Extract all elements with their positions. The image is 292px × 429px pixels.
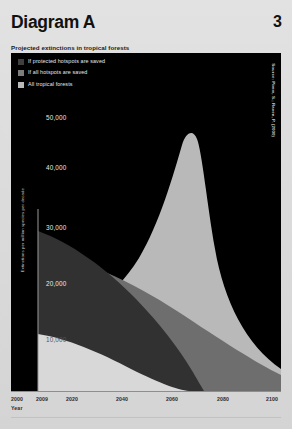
legend-label: If protected hotspots are saved	[28, 59, 105, 64]
legend-swatch-protected-hotspots	[18, 59, 24, 65]
y-tick-10000: 10,000	[46, 337, 66, 343]
chart-panel: If protected hotspots are saved If all h…	[11, 53, 281, 391]
chart-legend: If protected hotspots are saved If all h…	[18, 57, 105, 92]
x-tick-2080: 2080	[217, 397, 229, 402]
page-background: Diagram A 3 Projected extinctions in tro…	[0, 0, 292, 429]
x-axis: 2000 2009 2020 2040 2060 2080 2100 Year	[11, 391, 281, 429]
legend-item[interactable]: If all hotspots are saved	[18, 69, 105, 78]
x-tick-2100: 2100	[266, 397, 278, 402]
y-tick-40000: 40,000	[46, 165, 66, 171]
y-tick-30000: 30,000	[46, 225, 66, 231]
legend-label: All tropical forests	[28, 82, 73, 87]
legend-label: If all hotspots are saved	[28, 70, 87, 75]
x-tick-2009: 2009	[36, 397, 48, 402]
x-tick-2000: 2000	[11, 397, 23, 402]
legend-item[interactable]: All tropical forests	[18, 80, 105, 89]
footer-rule	[11, 417, 281, 418]
legend-item[interactable]: If protected hotspots are saved	[18, 57, 105, 66]
y-tick-20000: 20,000	[46, 281, 66, 287]
y-axis-title: Extinctions per million species per deca…	[21, 187, 25, 273]
x-axis-line	[11, 391, 281, 392]
legend-swatch-all-hotspots	[18, 70, 24, 76]
page-number: 3	[273, 14, 282, 30]
x-axis-title: Year	[11, 406, 23, 411]
x-tick-2060: 2060	[166, 397, 178, 402]
x-tick-2040: 2040	[116, 397, 128, 402]
y-tick-50000: 50,000	[46, 115, 66, 121]
source-credit: Source: Pimm, S.; Raven, P. (2000)	[271, 61, 275, 139]
page-title: Diagram A	[11, 14, 95, 32]
page-header: Diagram A 3 Projected extinctions in tro…	[0, 0, 292, 46]
chart-subtitle: Projected extinctions in tropical forest…	[11, 44, 129, 51]
x-tick-2020: 2020	[66, 397, 78, 402]
legend-swatch-all-forests	[18, 82, 24, 88]
